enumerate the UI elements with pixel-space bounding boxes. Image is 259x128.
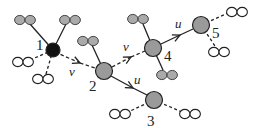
gray-leaf-icon: [78, 36, 99, 45]
node-3: [146, 92, 163, 109]
edge-2-3-tail: [133, 88, 147, 95]
node-label-5: 5: [212, 25, 220, 41]
edge-label-1-2: v: [69, 64, 75, 79]
white-leaf-icon: [110, 109, 131, 118]
node-label-3: 3: [147, 113, 155, 128]
edge-4-5-tail: [180, 29, 193, 35]
gray-leaf-icon: [15, 15, 36, 24]
edge-2-4: [112, 57, 131, 67]
node-2: [96, 63, 113, 80]
gray-leaf-icon: [157, 70, 178, 79]
white-leaf-icon: [33, 74, 54, 83]
edge-2-4-tail: [131, 51, 145, 57]
node-label-2: 2: [89, 78, 97, 94]
white-leaf-icon: [209, 47, 230, 56]
node-5: [193, 17, 210, 34]
nodes: [46, 17, 210, 109]
node-4: [145, 40, 162, 57]
white-leaf-icon: [180, 109, 201, 118]
edge-2-3: [111, 76, 133, 88]
edge-label-4-5: u: [175, 16, 182, 31]
gray-leaf-icon: [60, 15, 81, 24]
edge-label-2-3: u: [134, 72, 141, 87]
edge-1-2-tail: [80, 63, 95, 68]
gray-leaf-icon: [128, 14, 149, 23]
node-label-1: 1: [36, 37, 44, 53]
node-label-4: 4: [164, 48, 172, 64]
node-1: [46, 43, 60, 57]
edge-4-5: [161, 35, 180, 44]
white-leaf-icon: [13, 57, 34, 66]
tree-diagram: 1 2 3 4 5 v v u u: [0, 0, 259, 128]
white-leaf-icon: [227, 7, 248, 16]
edge-label-2-4: v: [123, 39, 129, 54]
